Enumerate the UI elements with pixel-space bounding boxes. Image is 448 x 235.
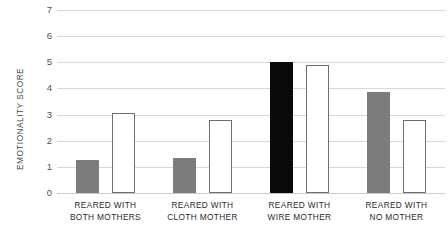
x-category-label-4-line2: NO MOTHER xyxy=(348,212,445,224)
gridline-5 xyxy=(57,62,445,63)
x-category-label-2-line2: CLOTH MOTHER xyxy=(154,212,251,224)
gridline-6 xyxy=(57,36,445,37)
gridline-0 xyxy=(57,193,445,194)
x-category-label-4: REARED WITHNO MOTHER xyxy=(348,200,445,223)
y-tick-label-0: 0 xyxy=(38,188,52,198)
x-category-label-1-line1: REARED WITH xyxy=(57,200,154,212)
x-category-label-3: REARED WITHWIRE MOTHER xyxy=(251,200,348,223)
emotionality-score-bar-chart: EMOTIONALITY SCORE 01234567 REARED WITHB… xyxy=(0,0,448,235)
bar-group-2-first-bar xyxy=(173,158,196,193)
bar-group-3-second-bar xyxy=(306,65,329,193)
x-category-label-4-line1: REARED WITH xyxy=(348,200,445,212)
bar-group-4-first-bar xyxy=(367,92,390,193)
x-category-label-3-line1: REARED WITH xyxy=(251,200,348,212)
y-axis-ticks: 01234567 xyxy=(36,0,52,235)
x-category-label-2-line1: REARED WITH xyxy=(154,200,251,212)
y-tick-label-5: 5 xyxy=(38,57,52,67)
y-tick-label-7: 7 xyxy=(38,5,52,15)
y-tick-label-6: 6 xyxy=(38,31,52,41)
y-tick-label-2: 2 xyxy=(38,136,52,146)
x-category-label-3-line2: WIRE MOTHER xyxy=(251,212,348,224)
y-tick-label-4: 4 xyxy=(38,83,52,93)
gridline-7 xyxy=(57,10,445,11)
y-tick-label-1: 1 xyxy=(38,162,52,172)
bar-group-3-first-bar xyxy=(270,62,293,193)
bar-group-1-second-bar xyxy=(112,113,135,193)
x-category-label-1: REARED WITHBOTH MOTHERS xyxy=(57,200,154,223)
bar-group-2-second-bar xyxy=(209,120,232,193)
gridline-4 xyxy=(57,88,445,89)
x-category-label-1-line2: BOTH MOTHERS xyxy=(57,212,154,224)
bar-group-1-first-bar xyxy=(76,160,99,193)
y-tick-label-3: 3 xyxy=(38,110,52,120)
y-axis-title: EMOTIONALITY SCORE xyxy=(14,0,28,170)
bar-group-4-second-bar xyxy=(403,120,426,193)
x-category-label-2: REARED WITHCLOTH MOTHER xyxy=(154,200,251,223)
